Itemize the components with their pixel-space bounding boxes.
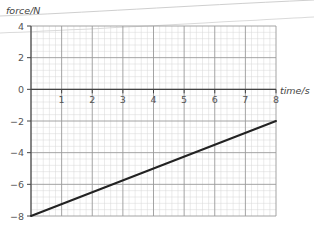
y-tick-label: 4 xyxy=(18,21,24,32)
chart-canvas: 12345678 420−2−4−6−8 force/N time/s xyxy=(0,0,314,232)
x-tick-label: 7 xyxy=(242,94,248,105)
y-tick-label: −2 xyxy=(10,116,24,127)
x-tick-label: 5 xyxy=(181,94,187,105)
y-tick-label: −6 xyxy=(10,179,24,190)
y-tick-label: 0 xyxy=(18,84,24,95)
y-axis-title: force/N xyxy=(6,5,40,16)
x-tick-label: 8 xyxy=(273,94,279,105)
force-time-chart: 12345678 420−2−4−6−8 force/N time/s xyxy=(0,0,314,232)
x-tick-label: 1 xyxy=(59,94,65,105)
y-tick-label: 2 xyxy=(18,52,24,63)
x-axis-title: time/s xyxy=(280,85,310,96)
x-tick-label: 6 xyxy=(212,94,218,105)
x-axis-tick-labels: 12345678 xyxy=(59,94,279,105)
paper-crease-lines xyxy=(0,0,314,33)
y-axis-tick-labels: 420−2−4−6−8 xyxy=(10,21,24,222)
x-tick-label: 3 xyxy=(120,94,126,105)
x-tick-label: 4 xyxy=(150,94,156,105)
x-tick-label: 2 xyxy=(89,94,95,105)
y-tick-label: −8 xyxy=(10,211,24,222)
y-tick-label: −4 xyxy=(10,147,24,158)
